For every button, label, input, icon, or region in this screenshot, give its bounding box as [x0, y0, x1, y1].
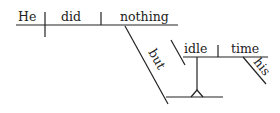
word-modifier-verb: idle — [184, 41, 207, 56]
triangle-connector — [191, 90, 203, 97]
word-possessive: his — [251, 55, 274, 79]
word-object: nothing — [120, 9, 169, 24]
word-verb: did — [61, 9, 81, 24]
sentence-diagram: He did nothing but idle time his — [0, 0, 280, 113]
word-conjunction: but — [145, 46, 169, 72]
word-subject: He — [18, 9, 36, 24]
word-modifier-object: time — [231, 41, 259, 56]
modifier-slant — [171, 40, 185, 65]
